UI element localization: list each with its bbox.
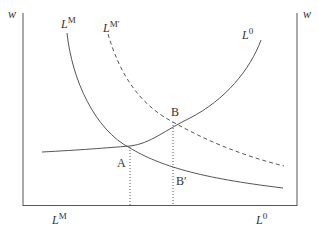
left-axis-label: w xyxy=(8,7,16,21)
bottom-right-label: L0 xyxy=(255,211,268,227)
bottom-left-label: LM xyxy=(51,211,67,227)
curve-L0 xyxy=(42,40,261,152)
curve-LM-prime xyxy=(108,34,284,166)
point-B-label: B xyxy=(171,105,179,119)
label-LM-prime: LM' xyxy=(102,19,120,35)
label-LM: LM xyxy=(60,15,76,31)
right-axis-label: w xyxy=(303,7,311,21)
point-A-label: A xyxy=(117,156,126,170)
point-B-prime-label: B′ xyxy=(176,174,187,188)
diagram-canvas: w w LM L0 LM LM' L0 A B B′ xyxy=(0,0,318,233)
label-L0: L0 xyxy=(241,26,254,42)
